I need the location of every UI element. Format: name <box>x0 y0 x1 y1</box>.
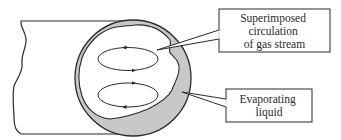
svg-text:Superimposed circulation: Superimposed circulation of gas stream <box>240 12 309 51</box>
callout-liquid: Evaporating liquid <box>182 89 312 122</box>
callout-circulation: Superimposed circulation of gas stream <box>157 9 330 52</box>
callout-circulation-line2: circulation <box>248 25 297 37</box>
callout-liquid-pointer <box>182 92 226 107</box>
pipe-cross-section <box>75 20 191 136</box>
callout-liquid-line1: Evaporating <box>239 93 295 106</box>
pipe-break-line <box>13 21 26 134</box>
callout-liquid-line2: liquid <box>256 106 283 119</box>
callout-circulation-line1: Superimposed <box>240 12 306 25</box>
pipe-evaporation-diagram: Superimposed circulation of gas stream E… <box>0 0 341 140</box>
callout-circulation-line3: of gas stream <box>244 38 305 51</box>
